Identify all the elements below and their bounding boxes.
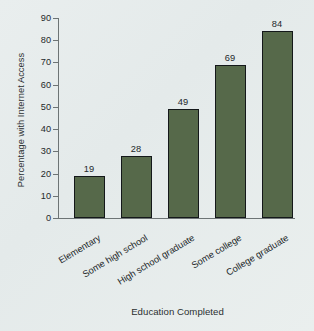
x-axis-title: Education Completed <box>55 306 300 317</box>
x-axis-category-labels: Elementary Some high school High school … <box>0 0 314 331</box>
bar-chart-figure: Percentage with Internet Access 90 80 70… <box>0 0 314 331</box>
